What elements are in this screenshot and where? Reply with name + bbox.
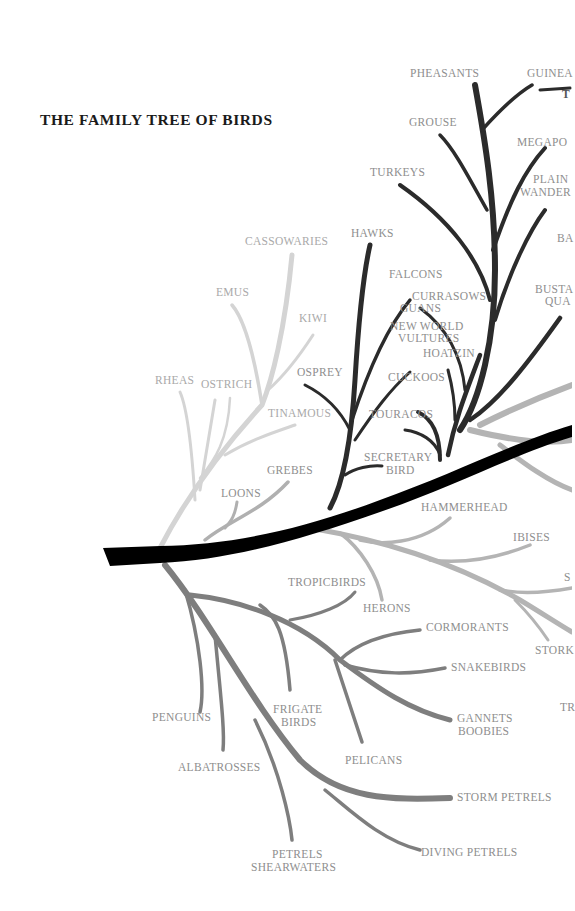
label-rheas: RHEAS bbox=[155, 374, 194, 386]
label-albatrosses: ALBATROSSES bbox=[178, 761, 261, 773]
label-ba-partial: BA bbox=[557, 232, 574, 244]
label-ibises: IBISES bbox=[513, 531, 550, 543]
label-currasows: CURRASOWS bbox=[412, 290, 486, 302]
label-loons: LOONS bbox=[221, 487, 261, 499]
label-storks-partial: STORK bbox=[535, 644, 574, 656]
label-pheasants: PHEASANTS bbox=[410, 67, 479, 79]
label-plains-wanderer-1: PLAIN bbox=[533, 173, 568, 185]
label-snakebirds: SNAKEBIRDS bbox=[451, 661, 526, 673]
label-megapodes-partial: MEGAPO bbox=[517, 136, 567, 148]
label-hoatzin: HOATZIN bbox=[423, 347, 475, 359]
label-diving-petrels: DIVING PETRELS bbox=[421, 846, 518, 858]
label-new-world-vultures-1: NEW WORLD bbox=[390, 320, 464, 332]
label-gannets-boobies-1: GANNETS bbox=[457, 712, 513, 724]
label-petrels-shearwaters-1: PETRELS bbox=[272, 848, 323, 860]
label-cormorants: CORMORANTS bbox=[426, 621, 509, 633]
label-s-partial: S bbox=[564, 571, 571, 583]
label-pelicans: PELICANS bbox=[345, 754, 402, 766]
label-touracos: TOURACOS bbox=[369, 408, 433, 420]
label-tinamous: TINAMOUS bbox=[268, 407, 331, 419]
label-bustards-2: QUA bbox=[545, 295, 571, 307]
label-herons: HERONS bbox=[363, 602, 411, 614]
label-tr-partial: TR bbox=[560, 701, 575, 713]
label-penguins: PENGUINS bbox=[152, 711, 211, 723]
label-hawks: HAWKS bbox=[351, 227, 394, 239]
label-falcons: FALCONS bbox=[389, 268, 443, 280]
label-turkeys: TURKEYS bbox=[370, 166, 425, 178]
label-new-world-vultures-2: VULTURES bbox=[398, 332, 459, 344]
label-t-partial: T bbox=[562, 88, 570, 100]
label-grouse: GROUSE bbox=[409, 116, 457, 128]
label-hammerhead: HAMMERHEAD bbox=[421, 501, 508, 513]
label-tropicbirds: TROPICBIRDS bbox=[288, 576, 366, 588]
label-guans: GUANS bbox=[400, 302, 441, 314]
label-petrels-shearwaters-2: SHEARWATERS bbox=[251, 861, 336, 873]
label-plains-wanderer-2: WANDER bbox=[520, 186, 571, 198]
label-grebes: GREBES bbox=[267, 464, 313, 476]
label-ostrich: OSTRICH bbox=[201, 378, 252, 390]
label-storm-petrels: STORM PETRELS bbox=[457, 791, 552, 803]
label-cassowaries: CASSOWARIES bbox=[245, 235, 328, 247]
label-kiwi: KIWI bbox=[299, 312, 327, 324]
label-frigate-birds-2: BIRDS bbox=[281, 716, 316, 728]
label-guinea-partial: GUINEA bbox=[527, 67, 573, 79]
label-emus: EMUS bbox=[216, 286, 249, 298]
label-secretary-bird-2: BIRD bbox=[386, 464, 415, 476]
label-frigate-birds-1: FRIGATE bbox=[273, 703, 322, 715]
label-secretary-bird-1: SECRETARY bbox=[364, 451, 432, 463]
label-osprey: OSPREY bbox=[297, 366, 343, 378]
label-gannets-boobies-2: BOOBIES bbox=[458, 725, 509, 737]
label-cuckoos: CUCKOOS bbox=[388, 371, 445, 383]
label-bustards-1: BUSTA bbox=[535, 283, 573, 295]
